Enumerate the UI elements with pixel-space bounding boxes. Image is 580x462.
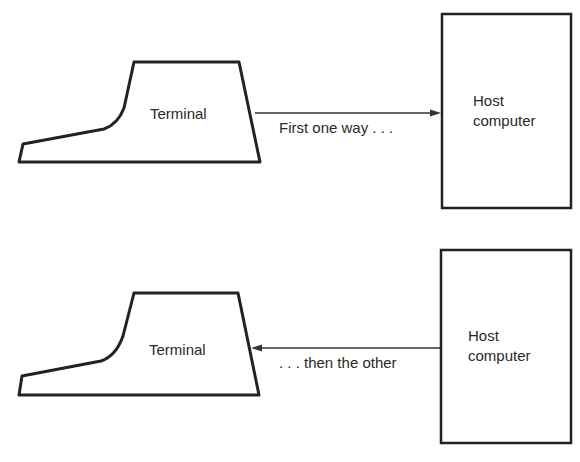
arrowhead-right-icon <box>430 110 441 117</box>
arrow-label-bottom: . . . then the other <box>279 353 397 372</box>
terminal-label-bottom: Terminal <box>149 340 206 359</box>
host-label-bottom: Host computer <box>468 326 531 366</box>
arrowhead-left-icon <box>251 345 262 352</box>
host-label-top: Host computer <box>473 91 536 131</box>
terminal-shape-top <box>19 62 260 162</box>
host-label-bottom-line1: Host <box>468 326 531 346</box>
diagram-canvas <box>0 0 580 462</box>
host-label-bottom-line2: computer <box>468 346 531 366</box>
arrow-label-top: First one way . . . <box>279 118 393 137</box>
terminal-label-top: Terminal <box>150 104 207 123</box>
host-label-top-line1: Host <box>473 91 536 111</box>
host-label-top-line2: computer <box>473 111 536 131</box>
terminal-shape-bottom <box>19 293 259 395</box>
